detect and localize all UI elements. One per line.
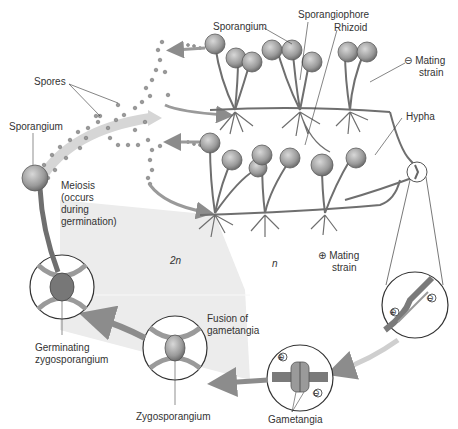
zygosporangium-label: Zygosporangium xyxy=(136,411,210,423)
rhizoid-label: Rhizoid xyxy=(334,22,367,34)
contact-zoom-circle xyxy=(382,272,448,338)
zygosporangium-zoom-circle xyxy=(143,316,207,405)
lower-mycelium xyxy=(199,112,420,237)
haploid-n-label: n xyxy=(272,258,278,270)
sporangiophore-label: Sporangiophore xyxy=(298,9,369,21)
spores xyxy=(42,40,201,186)
hypha-label: Hypha xyxy=(406,111,435,123)
left-sporangium xyxy=(22,165,48,191)
minus-mating-strain-label: ⊖ Mating strain xyxy=(404,55,445,79)
spores-label: Spores xyxy=(34,76,66,88)
minus-symbol-icon: ⊖ xyxy=(404,55,412,66)
contact-to-gametangia-arrow xyxy=(340,340,398,370)
gametangia-label: Gametangia xyxy=(268,414,322,426)
fusion-of-gametangia-label: Fusion of gametangia xyxy=(207,313,259,337)
sporangium-left-label: Sporangium xyxy=(9,121,63,133)
plus-symbol-icon: ⊕ xyxy=(318,250,326,261)
upper-dispersal-arrow xyxy=(175,48,205,50)
diploid-2n-label: 2n xyxy=(170,255,181,267)
meiosis-label: Meiosis (occurs during germination) xyxy=(61,180,117,228)
plus-mating-strain-label: ⊕ Mating strain xyxy=(318,250,359,274)
to-lower-mycelium-arrow xyxy=(150,185,205,212)
sporangium-top-label: Sporangium xyxy=(213,21,267,33)
gametangia-minus-icon: ⊖ xyxy=(312,387,320,399)
contact-plus-icon: ⊕ xyxy=(389,306,397,318)
gametangia-to-zygo-arrow xyxy=(222,380,268,383)
contact-minus-icon: ⊖ xyxy=(426,292,434,304)
gametangia-plus-icon: ⊕ xyxy=(277,351,285,363)
upper-sporangia xyxy=(205,34,377,72)
germinating-zygosporangium-label: Germinating zygosporangium xyxy=(35,342,108,366)
